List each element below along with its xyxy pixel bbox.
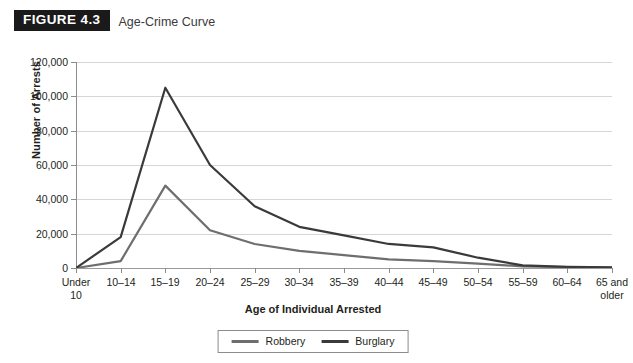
legend-label: Robbery [266, 335, 306, 347]
series-line-burglary [76, 88, 612, 268]
x-tick-mark [389, 268, 390, 273]
series-line-robbery [76, 186, 612, 268]
x-tick-mark [299, 268, 300, 273]
plot-area [76, 62, 612, 268]
y-tick-label: 40,000 [6, 193, 68, 205]
legend-swatch-robbery [232, 340, 259, 343]
x-tick-mark [210, 268, 211, 273]
x-tick-mark [567, 268, 568, 273]
x-tick-mark [344, 268, 345, 273]
x-tick-mark [165, 268, 166, 273]
chart-legend: RobberyBurglary [218, 330, 409, 353]
y-tick-label: 20,000 [6, 228, 68, 240]
x-tick-mark [255, 268, 256, 273]
y-tick-label: 120,000 [6, 56, 68, 68]
x-tick-label: 65 andolder [580, 276, 633, 301]
y-tick-label: 0 [6, 262, 68, 274]
x-tick-mark [612, 268, 613, 273]
x-axis-title: Age of Individual Arrested [0, 303, 626, 315]
x-tick-mark [523, 268, 524, 273]
y-tick-label: 100,000 [6, 90, 68, 102]
x-tick-mark [478, 268, 479, 273]
legend-item-robbery[interactable]: Robbery [232, 335, 306, 347]
x-tick-mark [76, 268, 77, 273]
y-tick-label: 80,000 [6, 125, 68, 137]
legend-label: Burglary [355, 335, 394, 347]
legend-swatch-burglary [321, 340, 348, 343]
legend-item-burglary[interactable]: Burglary [321, 335, 394, 347]
y-tick-label: 60,000 [6, 159, 68, 171]
x-tick-mark [433, 268, 434, 273]
x-tick-mark [121, 268, 122, 273]
